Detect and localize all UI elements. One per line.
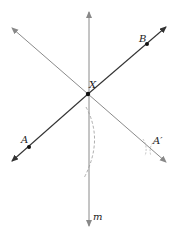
label-b: B <box>138 33 146 44</box>
point-x <box>86 92 90 96</box>
point-a <box>27 145 31 149</box>
label-m: m <box>93 211 102 222</box>
label-a-prime: A′ <box>152 135 163 146</box>
reflection-diagram: X B A A′ m <box>0 0 178 235</box>
label-a: A <box>20 134 28 145</box>
label-x: X <box>88 79 97 90</box>
